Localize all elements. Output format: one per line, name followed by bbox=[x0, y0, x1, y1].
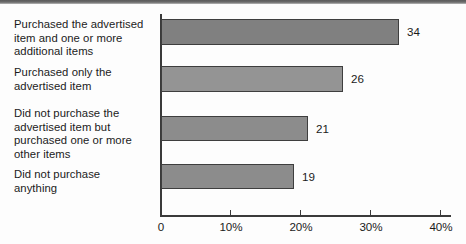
bar-2 bbox=[161, 116, 308, 141]
bar-value-label-1: 26 bbox=[351, 72, 364, 85]
x-axis-tick-2 bbox=[300, 210, 301, 216]
bar-3 bbox=[161, 164, 294, 189]
x-axis-tick-label-3: 30% bbox=[359, 220, 382, 233]
category-label-0: Purchased the advertised item and one or… bbox=[14, 18, 158, 59]
bar-chart-figure: Purchased the advertised item and one or… bbox=[0, 0, 466, 244]
bar-1 bbox=[161, 66, 343, 92]
category-label-3: Did not purchase anything bbox=[14, 168, 158, 195]
category-label-2: Did not purchase the advertised item but… bbox=[14, 107, 158, 161]
category-axis-labels: Purchased the advertised item and one or… bbox=[0, 0, 158, 244]
x-axis-tick-4 bbox=[440, 210, 441, 216]
x-axis-tick-label-1: 10% bbox=[219, 220, 242, 233]
x-axis-tick-label-4: 40% bbox=[429, 220, 452, 233]
bar-value-label-2: 21 bbox=[316, 122, 329, 135]
x-axis-tick-label-2: 20% bbox=[289, 220, 312, 233]
value-axis-line bbox=[160, 215, 451, 217]
bar-0 bbox=[161, 19, 399, 45]
category-label-1: Purchased only the advertised item bbox=[14, 66, 158, 93]
plot-area: 0 10% 20% 30% 40% 34 26 21 19 bbox=[160, 12, 460, 218]
x-axis-tick-label-0: 0 bbox=[158, 220, 164, 233]
x-axis-tick-0 bbox=[160, 210, 161, 216]
x-axis-tick-1 bbox=[230, 210, 231, 216]
bar-value-label-3: 19 bbox=[302, 170, 315, 183]
x-axis-tick-3 bbox=[370, 210, 371, 216]
bar-value-label-0: 34 bbox=[407, 25, 420, 38]
